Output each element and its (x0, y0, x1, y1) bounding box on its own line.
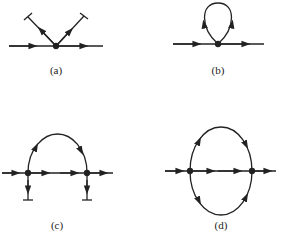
feynman-diagrams (0, 0, 283, 238)
panel-label-c: (c) (51, 219, 63, 231)
diagram-c (2, 134, 113, 200)
diagram-b (173, 3, 264, 47)
diagram-d (165, 127, 276, 215)
vertex (54, 44, 59, 49)
vertex (250, 169, 255, 174)
panel-label-b: (b) (212, 64, 225, 76)
diagram-a (9, 13, 103, 49)
vertex (188, 169, 193, 174)
panel-label-d: (d) (215, 219, 228, 231)
vertex (85, 171, 90, 176)
vertex (26, 171, 31, 176)
vertex (216, 42, 221, 47)
panel-label-a: (a) (50, 64, 62, 76)
